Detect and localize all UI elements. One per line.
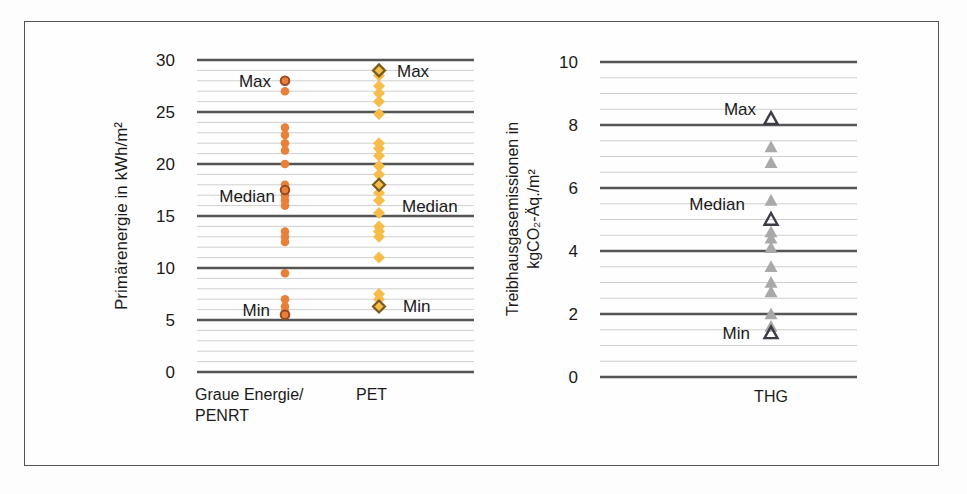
y-tick-label: 0 [569, 368, 578, 387]
triangle-marker [765, 112, 778, 124]
diamond-marker [373, 108, 385, 120]
diamond-marker [373, 300, 385, 312]
triangle-marker [765, 326, 778, 338]
triangle-marker [765, 141, 778, 153]
y-tick-label: 20 [156, 155, 175, 174]
triangle-marker [765, 156, 778, 168]
circle-marker [281, 87, 290, 96]
annotation-label: Min [403, 297, 430, 316]
y-tick-label: 0 [166, 363, 175, 382]
left-y-axis-label: Primärenergie in kWh/m² [112, 122, 131, 310]
circle-marker [281, 146, 290, 155]
y-tick-label: 4 [569, 242, 578, 261]
y-tick-label: 10 [559, 53, 578, 72]
y-tick-label: 2 [569, 305, 578, 324]
y-tick-label: 25 [156, 103, 175, 122]
circle-marker [281, 238, 290, 247]
right-chart-points [765, 112, 778, 338]
circle-marker [281, 77, 290, 86]
diamond-marker [373, 194, 385, 206]
circle-marker [281, 160, 290, 169]
annotation-label: Min [723, 324, 750, 343]
right-y-axis-label-line2: kgCO₂-Äq./m² [525, 169, 542, 269]
y-tick-label: 5 [166, 311, 175, 330]
triangle-marker [765, 260, 778, 272]
right-y-axis-label-line1: Treibhausgasemissionen in [504, 122, 521, 316]
category-label-thg: THG [754, 388, 788, 405]
circle-marker [281, 201, 290, 210]
diamond-marker [373, 96, 385, 108]
left-chart-annotations: MaxMedianMinMaxMedianMin [219, 62, 458, 319]
circle-marker [281, 131, 290, 140]
diamond-marker [373, 252, 385, 264]
triangle-marker [765, 213, 778, 225]
circle-marker [281, 311, 290, 320]
category-label-pet: PET [356, 386, 387, 403]
annotation-label: Max [397, 62, 430, 81]
diamond-marker [373, 179, 385, 191]
annotation-label: Median [219, 187, 275, 206]
left-chart-grid [197, 60, 474, 372]
triangle-marker [765, 194, 778, 206]
diamond-marker [373, 150, 385, 162]
y-tick-label: 15 [156, 207, 175, 226]
annotation-label: Min [243, 301, 270, 320]
annotation-label: Median [402, 197, 458, 216]
right-chart-annotations: MaxMedianMin [689, 100, 756, 343]
y-tick-label: 10 [156, 259, 175, 278]
primary-energy-chart: 051015202530 MaxMedianMinMaxMedianMin Pr… [0, 0, 967, 494]
y-tick-label: 8 [569, 116, 578, 135]
annotation-label: Max [724, 100, 757, 119]
right-chart-y-ticks: 0246810 [559, 53, 578, 387]
left-chart-y-ticks: 051015202530 [156, 51, 175, 382]
circle-marker [281, 186, 290, 195]
y-tick-label: 30 [156, 51, 175, 70]
annotation-label: Median [689, 195, 745, 214]
circle-marker [281, 269, 290, 278]
category-label-graue-energie: Graue Energie/ [195, 386, 304, 403]
category-label-penrt: PENRT [195, 407, 249, 424]
y-tick-label: 6 [569, 179, 578, 198]
annotation-label: Max [239, 72, 272, 91]
left-chart-points [281, 64, 385, 319]
